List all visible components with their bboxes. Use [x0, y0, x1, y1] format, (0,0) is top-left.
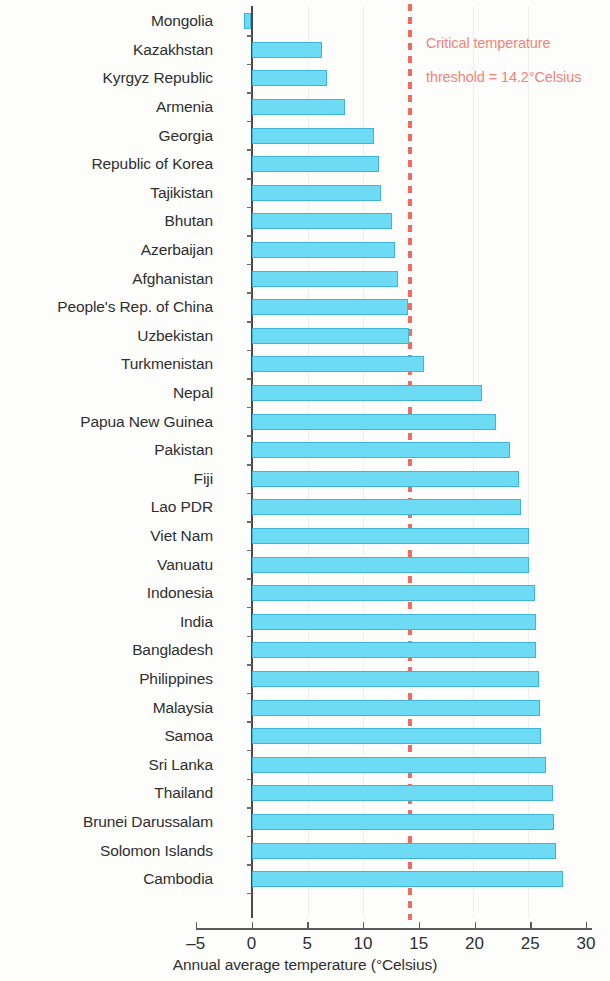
- category-label: Turkmenistan: [121, 357, 213, 373]
- bar-row: Georgia: [0, 121, 610, 150]
- category-label: Thailand: [154, 786, 213, 802]
- category-label: Republic of Korea: [91, 157, 213, 173]
- x-axis-tick: [363, 922, 364, 928]
- bar: [252, 328, 409, 344]
- bar: [252, 499, 522, 515]
- bar: [252, 356, 425, 372]
- x-axis-tick: [586, 922, 587, 928]
- bar: [252, 728, 542, 744]
- bar: [252, 442, 511, 458]
- bar: [252, 271, 398, 287]
- category-label: Indonesia: [147, 585, 213, 601]
- bar: [252, 642, 536, 658]
- bar: [252, 128, 375, 144]
- bar-row: Cambodia: [0, 865, 610, 894]
- bar-row: Armenia: [0, 93, 610, 122]
- bar-row: Azerbaijan: [0, 236, 610, 265]
- bar: [252, 471, 520, 487]
- bar-row: Tajikistan: [0, 179, 610, 208]
- category-label: Georgia: [159, 128, 213, 144]
- category-label: Tajikistan: [150, 185, 213, 201]
- horizontal-bar-chart: MongoliaKazakhstanKyrgyz RepublicArmenia…: [0, 0, 610, 981]
- bar: [252, 785, 553, 801]
- category-label: Mongolia: [151, 14, 213, 30]
- bar-row: Bhutan: [0, 207, 610, 236]
- category-label: Brunei Darussalam: [83, 814, 213, 830]
- category-label: Nepal: [173, 385, 213, 401]
- bar: [244, 13, 252, 29]
- bar-row: Indonesia: [0, 579, 610, 608]
- bar-row: Pakistan: [0, 436, 610, 465]
- bar-row: Sri Lanka: [0, 750, 610, 779]
- bar: [252, 757, 546, 773]
- bar: [252, 99, 346, 115]
- bar: [252, 843, 556, 859]
- category-label: Bangladesh: [132, 643, 213, 659]
- x-axis-tick: [419, 922, 420, 928]
- bar-row: Papua New Guinea: [0, 407, 610, 436]
- category-label: India: [180, 614, 213, 630]
- x-axis-tick-label: 20: [465, 934, 484, 954]
- x-axis-title: Annual average temperature (°Celsius): [0, 956, 610, 974]
- category-label: Sri Lanka: [148, 757, 213, 773]
- x-axis-tick-label: 0: [247, 934, 256, 954]
- category-label: Pakistan: [154, 442, 213, 458]
- category-label: Bhutan: [164, 214, 213, 230]
- bar: [252, 671, 540, 687]
- x-axis-tick-label: 5: [303, 934, 312, 954]
- bar: [252, 700, 541, 716]
- category-label: Samoa: [164, 728, 213, 744]
- bar-row: Fiji: [0, 465, 610, 494]
- bar: [252, 614, 536, 630]
- x-axis-tick: [252, 922, 253, 928]
- bar: [252, 299, 408, 315]
- category-label: Kyrgyz Republic: [103, 71, 214, 87]
- x-axis-tick: [196, 922, 197, 928]
- x-axis-tick-label: 15: [409, 934, 428, 954]
- bar: [252, 156, 379, 172]
- category-label: People's Rep. of China: [57, 299, 213, 315]
- bar-row: India: [0, 607, 610, 636]
- category-label: Lao PDR: [151, 500, 213, 516]
- category-label: Fiji: [194, 471, 213, 487]
- bar-row: Vanuatu: [0, 550, 610, 579]
- bar-rows: MongoliaKazakhstanKyrgyz RepublicArmenia…: [0, 7, 610, 893]
- category-label: Viet Nam: [150, 528, 213, 544]
- bar-row: Brunei Darussalam: [0, 808, 610, 837]
- bar: [252, 414, 496, 430]
- x-axis-tick: [307, 922, 308, 928]
- x-axis-tick-label: –5: [186, 934, 205, 954]
- plot-area: MongoliaKazakhstanKyrgyz RepublicArmenia…: [0, 0, 610, 925]
- bar-row: People's Rep. of China: [0, 293, 610, 322]
- bar-row: Solomon Islands: [0, 836, 610, 865]
- category-label: Kazakhstan: [133, 42, 213, 58]
- category-label: Afghanistan: [132, 271, 213, 287]
- bar: [252, 185, 381, 201]
- bar-row: Malaysia: [0, 693, 610, 722]
- category-label: Armenia: [156, 99, 213, 115]
- bar-row: Nepal: [0, 379, 610, 408]
- threshold-annotation-line-1: Critical temperature: [426, 26, 551, 60]
- category-label: Vanuatu: [157, 557, 213, 573]
- category-label: Solomon Islands: [100, 843, 213, 859]
- x-axis-tick: [530, 922, 531, 928]
- category-label: Papua New Guinea: [80, 414, 213, 430]
- category-label: Cambodia: [143, 871, 213, 887]
- category-label: Malaysia: [153, 700, 213, 716]
- bar: [252, 242, 396, 258]
- bar: [252, 814, 554, 830]
- x-axis-tick: [475, 922, 476, 928]
- bar-row: Afghanistan: [0, 264, 610, 293]
- category-label: Philippines: [139, 671, 213, 687]
- bar-row: Republic of Korea: [0, 150, 610, 179]
- bar: [252, 70, 328, 86]
- threshold-annotation-line-2: threshold = 14.2°Celsius: [426, 60, 581, 94]
- x-axis-tick-label: 25: [521, 934, 540, 954]
- bar: [252, 871, 563, 887]
- category-label: Azerbaijan: [141, 242, 213, 258]
- bar: [252, 385, 483, 401]
- category-label: Uzbekistan: [137, 328, 213, 344]
- bar: [252, 528, 530, 544]
- bar-row: Turkmenistan: [0, 350, 610, 379]
- bar: [252, 585, 535, 601]
